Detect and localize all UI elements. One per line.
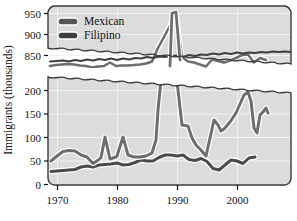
y-tick-150: 150 bbox=[25, 108, 42, 120]
y-axis-title: Immigrants (thousands) bbox=[2, 45, 15, 155]
x-tick-2000: 2000 bbox=[227, 194, 250, 206]
y-tick-850: 850 bbox=[25, 50, 42, 62]
y-tick-200: 200 bbox=[25, 85, 42, 97]
y-tick-0: 0 bbox=[36, 179, 42, 191]
x-tick-1970: 1970 bbox=[47, 194, 70, 206]
chart-canvas: 950 900 850 Mexican Filipino bbox=[0, 0, 297, 221]
legend-label-filipino: Filipino bbox=[84, 29, 121, 42]
y-tick-100: 100 bbox=[25, 132, 42, 144]
legend-swatch-filipino bbox=[58, 32, 78, 39]
x-tick-1990: 1990 bbox=[167, 194, 190, 206]
y-tick-900: 900 bbox=[25, 29, 42, 41]
x-axis: 1970 1980 1990 2000 bbox=[47, 185, 250, 206]
y-tick-950: 950 bbox=[25, 8, 42, 20]
legend-label-mexican: Mexican bbox=[84, 15, 124, 27]
immigrants-line-chart: 950 900 850 Mexican Filipino bbox=[0, 0, 297, 221]
legend-swatch-mexican bbox=[58, 18, 78, 25]
y-tick-50: 50 bbox=[30, 155, 42, 167]
x-tick-1980: 1980 bbox=[107, 194, 130, 206]
x-ticks bbox=[58, 185, 238, 190]
